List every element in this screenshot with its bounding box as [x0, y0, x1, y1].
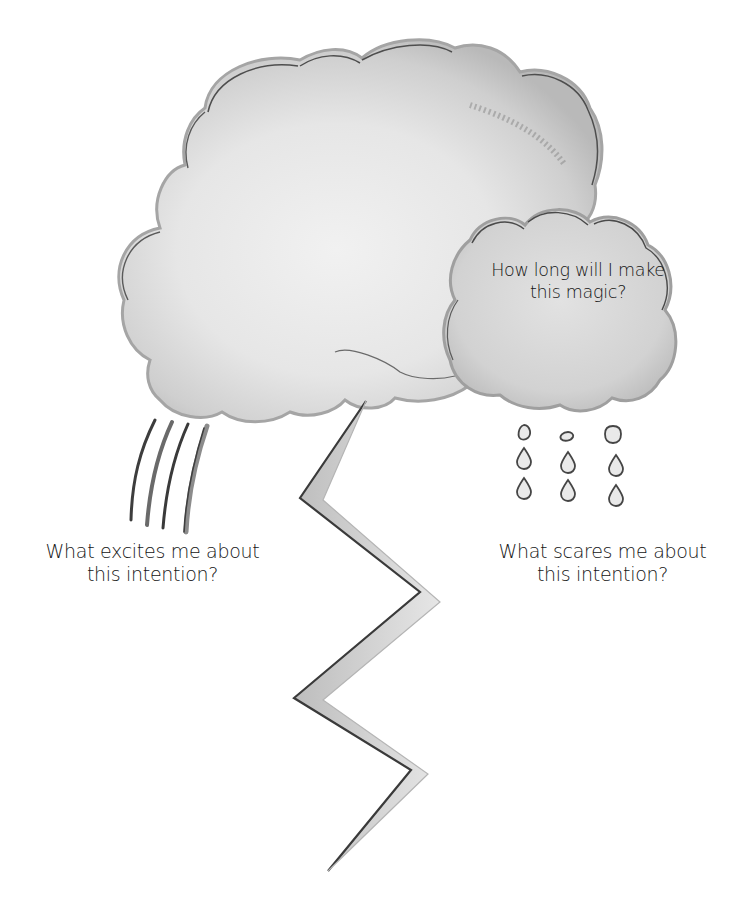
prompt-duration: How long will I make this magic? — [478, 259, 678, 303]
storm-illustration — [0, 0, 731, 904]
prompt-scares: What scares me about this intention? — [485, 540, 720, 586]
prompt-excites-line2: this intention? — [20, 563, 285, 586]
prompt-duration-line2: this magic? — [478, 281, 678, 303]
prompt-excites-line1: What excites me about — [20, 540, 285, 563]
prompt-excites: What excites me about this intention? — [20, 540, 285, 586]
small-cloud-icon — [444, 210, 676, 411]
raindrops-icon — [517, 425, 623, 506]
lightning-bolt-icon — [294, 401, 440, 871]
prompt-duration-line1: How long will I make — [478, 259, 678, 281]
prompt-scares-line1: What scares me about — [485, 540, 720, 563]
prompt-scares-line2: this intention? — [485, 563, 720, 586]
rain-streaks-icon — [131, 420, 207, 532]
worksheet-page: • • • •••• — [0, 0, 731, 904]
